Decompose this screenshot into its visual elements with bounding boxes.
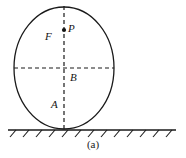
- label-center-b: B: [70, 72, 77, 83]
- ellipse-on-ground-diagram: [0, 0, 186, 158]
- ground-hatching: [10, 130, 172, 137]
- figure-caption: (a): [0, 138, 186, 150]
- figure-container: F P B A (a): [0, 0, 186, 158]
- point-p-dot: [62, 28, 66, 32]
- label-point-p: P: [68, 23, 75, 34]
- label-focus-f: F: [45, 31, 52, 42]
- label-point-a: A: [51, 99, 58, 110]
